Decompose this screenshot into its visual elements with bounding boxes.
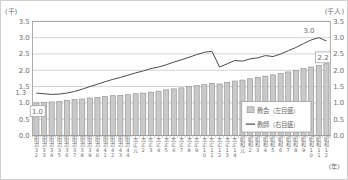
x-axis-label: 明治34 xyxy=(49,136,54,158)
bar xyxy=(202,85,207,136)
x-axis-label: 昭和7 xyxy=(286,136,291,153)
left-tick-label: 2.0 xyxy=(19,67,30,75)
x-axis-label: 明治43 xyxy=(118,136,123,158)
bar xyxy=(164,90,169,136)
x-axis-label: 昭和10 xyxy=(309,136,314,158)
bar xyxy=(49,102,54,136)
bar xyxy=(95,97,100,135)
bar xyxy=(125,95,130,136)
x-axis-label: 昭和12 xyxy=(324,136,329,158)
right-tick-label: 1.5 xyxy=(333,83,344,91)
right-tick-label: 1.0 xyxy=(333,99,344,107)
bar xyxy=(171,89,176,136)
bar xyxy=(156,91,161,135)
x-axis-label: 大正12 xyxy=(217,135,222,158)
x-axis-label: 昭和6 xyxy=(278,136,283,153)
bar xyxy=(87,98,92,135)
x-axis-label: 昭和3 xyxy=(255,136,260,153)
bar xyxy=(194,86,199,136)
plot-area: 0.00.00.50.51.01.01.51.52.02.02.52.53.03… xyxy=(15,18,344,159)
bar xyxy=(217,84,222,136)
x-axis-label: 明治32 xyxy=(34,136,39,158)
bar xyxy=(179,88,184,136)
bar xyxy=(316,65,321,135)
x-axis-label: 明治38 xyxy=(80,136,85,158)
left-axis-unit-label: (千) xyxy=(5,7,18,16)
x-axis-label: 明治41 xyxy=(103,136,108,158)
legend-label-bar: 教会（左目盛） xyxy=(257,106,299,115)
x-axis-label: 明治36 xyxy=(64,136,69,158)
data-label-1-3: 1.3 xyxy=(15,89,26,97)
x-axis-label: 大正7 xyxy=(179,135,184,153)
bar xyxy=(57,101,62,135)
right-tick-label: 0.5 xyxy=(333,116,344,124)
x-axis-label: 昭和5 xyxy=(271,136,276,153)
bar xyxy=(133,94,138,136)
bar xyxy=(141,93,146,135)
x-axis-unit-label: (年) xyxy=(329,162,340,171)
x-axis-label: 大正2 xyxy=(141,135,146,153)
legend: 教会（左目盛） 教師（右目盛） xyxy=(242,101,311,132)
chart-container: 0.00.00.50.51.01.01.51.52.02.02.52.53.03… xyxy=(0,0,348,180)
bar xyxy=(64,100,69,135)
left-tick-label: 1.0 xyxy=(19,99,30,107)
x-axis-label: 大正10 xyxy=(202,135,207,158)
left-tick-label: 3.0 xyxy=(19,34,30,42)
x-axis-label: 大正3 xyxy=(148,135,153,153)
x-axis-label: 昭和2 xyxy=(248,136,253,153)
x-axis-label: 大正4 xyxy=(156,135,161,153)
right-axis-unit-label: (千人) xyxy=(325,7,345,16)
left-tick-label: 2.5 xyxy=(19,50,30,58)
x-axis-label: 大正元 xyxy=(133,135,138,154)
bar xyxy=(186,87,191,136)
right-tick-label: 2.5 xyxy=(333,50,344,58)
data-label-2-2: 2.2 xyxy=(318,54,329,62)
right-tick-label: 0.0 xyxy=(333,132,344,140)
x-axis-label: 明治42 xyxy=(110,136,115,158)
left-tick-label: 3.5 xyxy=(19,18,30,26)
x-axis-label: 大正6 xyxy=(171,135,176,153)
bar-swatch-icon xyxy=(247,107,254,113)
x-axis-label: 大正13 xyxy=(225,135,230,158)
data-label-1-0: 1.0 xyxy=(32,108,43,116)
bar xyxy=(232,81,237,135)
x-axis-label: 昭和8 xyxy=(293,136,298,153)
bar xyxy=(103,96,108,135)
x-axis-label: 明治39 xyxy=(87,136,92,158)
data-label-3-0: 3.0 xyxy=(303,27,314,35)
left-tick-label: 0.5 xyxy=(19,116,30,124)
bar xyxy=(80,99,85,136)
x-axis-label: 大正9 xyxy=(194,135,199,153)
right-tick-label: 3.0 xyxy=(333,34,344,42)
x-axis-label: 明治44 xyxy=(125,136,130,158)
legend-label-line: 教師（右目盛） xyxy=(257,120,299,129)
bar xyxy=(72,100,77,136)
x-axis-label: 明治40 xyxy=(95,136,100,158)
bar xyxy=(148,92,153,135)
x-axis-label: 昭和4 xyxy=(263,136,268,153)
x-axis-label: 昭和元 xyxy=(240,136,245,154)
bar xyxy=(209,83,214,135)
x-axis-label: 昭和11 xyxy=(316,136,321,158)
bar xyxy=(324,64,329,136)
x-axis-label: 大正11 xyxy=(209,135,214,158)
bar xyxy=(225,82,230,135)
bar xyxy=(110,96,115,136)
chart-canvas: 0.00.00.50.51.01.01.51.52.02.02.52.53.03… xyxy=(1,1,347,179)
x-axis-label: 大正5 xyxy=(164,135,169,153)
x-axis-label: 明治33 xyxy=(42,136,47,158)
left-tick-label: 0.0 xyxy=(19,132,30,140)
right-tick-label: 3.5 xyxy=(333,18,344,26)
x-axis-label: 大正8 xyxy=(187,135,192,153)
right-tick-label: 2.0 xyxy=(333,67,344,75)
x-axis-label: 明治37 xyxy=(72,136,77,158)
bar xyxy=(118,95,123,135)
x-axis-label: 大正14 xyxy=(232,135,237,158)
x-axis-label: 明治35 xyxy=(57,136,62,158)
x-axis-label: 昭和9 xyxy=(301,136,306,153)
